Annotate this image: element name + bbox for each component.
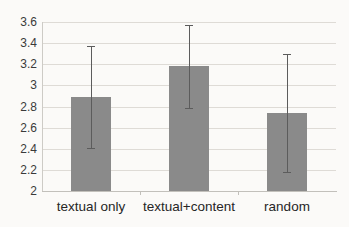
x-axis-tick [140,191,141,195]
y-axis-tick-label: 3.4 [20,36,37,50]
error-bar [287,54,288,172]
x-axis-category-label: textual+content [143,199,235,214]
y-axis-tick-label: 2.6 [20,121,37,135]
y-axis-tick-label: 2.4 [20,142,37,156]
y-axis-tick-label: 3.2 [20,57,37,71]
y-axis-tick-label: 3.6 [20,15,37,29]
y-axis-tick-label: 2.2 [20,163,37,177]
x-axis-category-label: textual only [57,199,125,214]
error-bar [91,46,92,147]
gridline [42,22,336,23]
x-axis-category-label: random [264,199,310,214]
y-axis-tick-label: 2.8 [20,100,37,114]
y-axis-tick-label: 2 [30,184,37,198]
error-bar [189,25,190,107]
error-bar-cap [87,148,95,149]
error-bar-cap [185,108,193,109]
y-axis-line [42,22,43,192]
y-axis-tick-label: 3 [30,78,37,92]
x-axis-tick [238,191,239,195]
bar-chart: 22.22.42.62.833.23.43.6textual onlytextu… [0,0,349,227]
error-bar-cap [87,46,95,47]
error-bar-cap [185,25,193,26]
error-bar-cap [283,54,291,55]
error-bar-cap [283,172,291,173]
x-axis-line [42,191,337,192]
